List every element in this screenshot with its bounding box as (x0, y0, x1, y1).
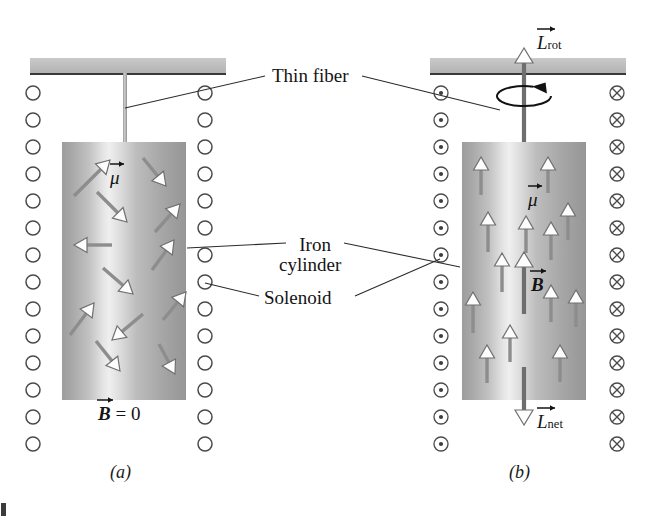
figure-canvas: μ B = 0 (a) L (0, 0, 651, 518)
leader-lines (0, 0, 651, 518)
scan-artifact (1, 503, 6, 516)
